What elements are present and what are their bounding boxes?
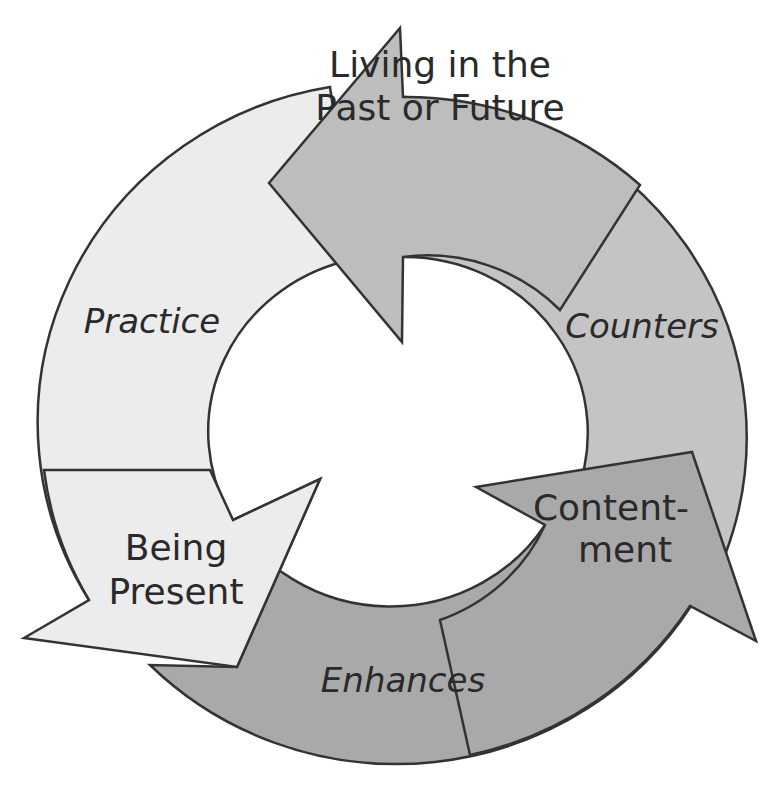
cycle-diagram: Living in the Past or Future Content- me… [0,0,782,787]
edge-enhances-label: Enhances [321,660,485,700]
node-contentment-label-line2: ment [578,529,672,570]
node-being-present-label-line2: Present [108,571,243,612]
node-being-present-label-line1: Being [125,527,228,568]
node-past-future-label-line2: Past or Future [315,87,564,128]
node-past-future-label-line1: Living in the [329,44,551,85]
edge-counters-label: Counters [565,306,719,346]
edge-practice-label: Practice [84,301,220,341]
node-contentment-label-line1: Content- [533,487,689,528]
